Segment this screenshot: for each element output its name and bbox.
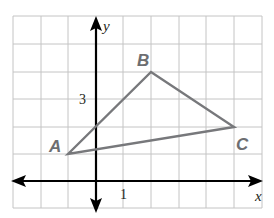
y-axis-label: y bbox=[101, 18, 110, 34]
point-label-c: C bbox=[236, 135, 249, 154]
y-axis bbox=[90, 16, 102, 213]
point-label-a: A bbox=[48, 137, 61, 156]
x-axis bbox=[11, 175, 263, 187]
x-axis-label: x bbox=[254, 188, 262, 204]
y-tick-label: 3 bbox=[79, 92, 86, 107]
point-label-b: B bbox=[137, 51, 149, 70]
coordinate-graph: y x 3 1 A B C bbox=[0, 0, 274, 218]
grid bbox=[13, 16, 262, 208]
x-tick-label: 1 bbox=[120, 187, 127, 202]
